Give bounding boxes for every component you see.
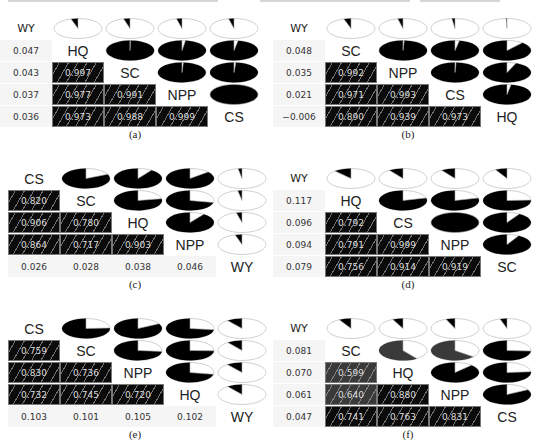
diagonal-variable-label: HQ	[52, 40, 104, 61]
correlation-pie-icon	[157, 40, 207, 61]
diagonal-variable-label: NPP	[377, 62, 429, 83]
correlation-tile: 0.906	[8, 212, 60, 233]
wy-pie-icon	[217, 318, 267, 339]
diagonal-variable-label: SC	[325, 340, 377, 361]
correlation-pie-icon	[165, 168, 215, 189]
panel-caption: (b)	[273, 128, 543, 140]
correlation-tile: 0.988	[104, 106, 156, 127]
correlation-pie-icon	[61, 318, 111, 339]
wy-pie-icon	[378, 318, 428, 339]
correlation-pie-icon	[378, 340, 428, 361]
diagonal-variable-label: HQ	[481, 106, 533, 127]
wy-correlation-value: 0.096	[273, 212, 325, 233]
wy-pie-icon	[53, 18, 103, 39]
correlation-pie-icon	[430, 340, 480, 361]
wy-pie-icon	[326, 168, 376, 189]
panel-d: WY0.1170.0960.0940.079HQCS0.792NPP0.7910…	[273, 160, 543, 300]
panel-a: WY0.0470.0430.0370.036HQSC0.997NPP0.9770…	[0, 10, 270, 150]
wy-pie-icon	[217, 340, 267, 361]
correlation-tile: 0.756	[325, 256, 377, 277]
wy-correlation-value: 0.079	[273, 256, 325, 277]
diagonal-variable-label: CS	[481, 406, 533, 427]
correlation-pie-icon	[482, 340, 532, 361]
correlation-pie-icon	[113, 168, 163, 189]
diagonal-variable-label: HQ	[112, 212, 164, 233]
wy-correlation-value: 0.046	[164, 256, 216, 277]
wy-correlation-value: 0.103	[8, 406, 60, 427]
wy-pie-icon	[430, 318, 480, 339]
correlation-pie-icon	[165, 190, 215, 211]
correlation-tile: 0.763	[377, 406, 429, 427]
wy-pie-icon	[217, 212, 267, 233]
wy-pie-icon	[217, 362, 267, 383]
panel-c: CS0.026SC0.8200.028HQ0.9060.7800.038NPP0…	[0, 160, 270, 300]
correlation-tile: 0.939	[377, 106, 429, 127]
wy-correlation-value: 0.038	[112, 256, 164, 277]
correlation-pie-icon	[482, 212, 532, 233]
correlation-tile: 0.997	[52, 62, 104, 83]
correlation-pie-icon	[430, 62, 480, 83]
wy-correlation-value: 0.117	[273, 190, 325, 211]
wy-pie-icon	[217, 384, 267, 405]
panel-f: WY0.0810.0700.0610.047SCHQ0.599NPP0.6400…	[273, 310, 543, 447]
correlation-tile: 0.991	[104, 84, 156, 105]
correlation-tile: 0.992	[325, 62, 377, 83]
wy-correlation-value: 0.026	[8, 256, 60, 277]
correlation-tile: 0.745	[60, 384, 112, 405]
correlation-tile: 0.741	[325, 406, 377, 427]
wy-correlation-value: 0.094	[273, 234, 325, 255]
correlation-pie-icon	[61, 168, 111, 189]
wy-correlation-value: 0.047	[0, 40, 52, 61]
wy-correlation-value: −0.006	[273, 106, 325, 127]
correlation-tile: 0.599	[325, 362, 377, 383]
diagonal-variable-label: NPP	[112, 362, 164, 383]
correlation-tile: 0.971	[325, 84, 377, 105]
correlation-tile: 0.973	[52, 106, 104, 127]
correlation-tile: 0.820	[8, 190, 60, 211]
wy-pie-icon	[482, 18, 532, 39]
wy-correlation-value: 0.035	[273, 62, 325, 83]
correlation-tile: 0.999	[377, 234, 429, 255]
diagonal-variable-label: SC	[60, 190, 112, 211]
correlation-pie-icon	[209, 62, 259, 83]
correlation-pie-icon	[113, 318, 163, 339]
diagonal-variable-label: HQ	[325, 190, 377, 211]
correlation-pie-icon	[378, 190, 428, 211]
correlation-tile: 0.720	[112, 384, 164, 405]
correlation-pie-icon	[165, 340, 215, 361]
wy-correlation-value: 0.070	[273, 362, 325, 383]
diagonal-variable-label: SC	[60, 340, 112, 361]
correlation-tile: 0.732	[8, 384, 60, 405]
panel-caption: (a)	[0, 128, 270, 140]
wy-correlation-value: 0.048	[273, 40, 325, 61]
wy-pie-icon	[217, 234, 267, 255]
wy-correlation-value: 0.036	[0, 106, 52, 127]
correlation-tile: 0.999	[156, 106, 208, 127]
diagonal-variable-label: CS	[208, 106, 260, 127]
correlation-pie-icon	[105, 40, 155, 61]
wy-correlation-value: 0.043	[0, 62, 52, 83]
correlation-pie-icon	[209, 40, 259, 61]
correlation-tile: 0.759	[8, 340, 60, 361]
correlation-tile: 0.717	[60, 234, 112, 255]
wy-pie-icon	[217, 190, 267, 211]
correlation-tile: 0.831	[429, 406, 481, 427]
wy-corner-label: WY	[273, 168, 325, 189]
correlation-pie-icon	[165, 212, 215, 233]
correlation-pie-icon	[482, 190, 532, 211]
correlation-tile: 0.780	[60, 212, 112, 233]
wy-pie-icon	[326, 18, 376, 39]
diagonal-variable-label: NPP	[156, 84, 208, 105]
correlation-pie-icon	[113, 190, 163, 211]
correlation-pie-icon	[378, 40, 428, 61]
diagonal-variable-label: NPP	[429, 234, 481, 255]
diagonal-variable-label: NPP	[164, 234, 216, 255]
correlation-tile: 0.736	[60, 362, 112, 383]
correlation-pie-icon	[157, 62, 207, 83]
panel-caption: (d)	[273, 278, 543, 290]
wy-pie-icon	[378, 168, 428, 189]
wy-corner-label: WY	[216, 406, 268, 427]
wy-pie-icon	[326, 318, 376, 339]
correlation-tile: 0.640	[325, 384, 377, 405]
diagonal-variable-label: CS	[8, 168, 60, 189]
